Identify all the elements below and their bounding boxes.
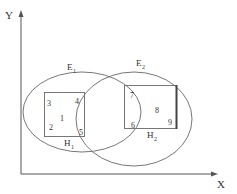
point-8: 8 xyxy=(155,106,159,115)
x-axis xyxy=(21,172,218,177)
y-axis-label: Y xyxy=(5,9,13,21)
box-h2-label: H 2 xyxy=(147,130,157,142)
svg-text:1: 1 xyxy=(71,144,74,150)
point-2: 2 xyxy=(49,123,53,132)
ellipse-e2 xyxy=(76,72,192,166)
box-h1-label: H 1 xyxy=(64,138,74,150)
point-4: 4 xyxy=(75,97,79,106)
svg-text:2: 2 xyxy=(154,136,157,142)
point-3: 3 xyxy=(47,99,51,108)
diagram-canvas: Y X E 1 E 2 H 1 H 2 1 2 3 4 5 6 7 8 9 xyxy=(0,0,237,194)
y-axis xyxy=(19,10,24,174)
y-axis-arrow-icon xyxy=(19,10,24,17)
point-6: 6 xyxy=(131,121,135,130)
point-1: 1 xyxy=(60,114,64,123)
x-axis-arrow-icon xyxy=(211,172,218,177)
svg-text:1: 1 xyxy=(73,68,76,74)
point-9: 9 xyxy=(168,118,172,127)
svg-text:H: H xyxy=(147,130,154,140)
point-7: 7 xyxy=(130,91,134,100)
ellipse-e2-label: E 2 xyxy=(136,58,145,70)
x-axis-label: X xyxy=(217,178,225,190)
svg-text:H: H xyxy=(64,138,71,148)
point-5: 5 xyxy=(79,128,83,137)
svg-text:2: 2 xyxy=(142,64,145,70)
